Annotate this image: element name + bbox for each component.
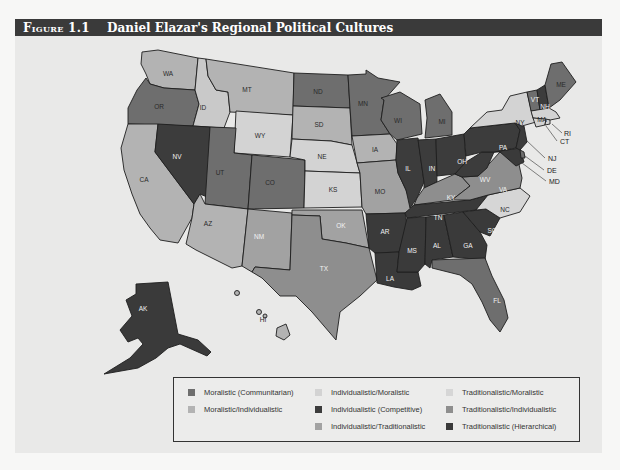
label-ma: MA [537,116,547,123]
label-vt: VT [531,96,539,103]
label-sd: SD [314,121,323,128]
legend-item-moralistic: Moralistic (Communitarian) [188,388,294,397]
label-il: IL [405,165,411,172]
label-ks: KS [329,186,338,193]
callout-md: MD [549,178,560,185]
legend-label: Traditionalistic/Individualistic [462,405,556,414]
callout-ct: CT [560,138,570,145]
label-nv: NV [172,153,182,160]
label-mi: MI [438,118,445,125]
label-mn: MN [358,100,368,107]
callouts: RI CT NJ DE MD [522,124,571,185]
label-az: AZ [204,220,212,227]
legend-item-traditionalistic-individualistic: Traditionalistic/Individualistic [446,405,556,414]
label-oh: OH [457,158,467,165]
legend-swatch [446,389,453,396]
label-wi: WI [394,117,402,124]
label-in: IN [429,165,436,172]
state-fl[interactable] [432,258,508,332]
label-ga: GA [463,242,473,249]
state-mi[interactable] [425,94,452,138]
label-va: VA [499,186,508,193]
label-or: OR [154,103,164,110]
legend-item-moralistic-individualistic: Moralistic/Individualistic [188,405,282,414]
label-id: ID [200,104,207,111]
callout-ri: RI [564,130,571,137]
legend-item-individualistic-moralistic: Individualistic/Moralistic [315,388,409,397]
legend-label: Individualistic/Moralistic [331,388,409,397]
label-co: CO [265,179,275,186]
label-ca: CA [139,176,149,183]
label-nc: NC [500,206,510,213]
label-ms: MS [407,247,417,254]
label-ok: OK [336,222,346,229]
label-tx: TX [320,265,329,272]
legend-item-traditionalistic-moralistic: Traditionalistic/Moralistic [446,388,543,397]
callout-nj: NJ [548,155,557,162]
state-hi-island [257,310,262,315]
legend-swatch [446,406,453,413]
legend-item-traditionalistic: Traditionalistic (Hierarchical) [446,422,556,431]
state-ny[interactable] [470,92,536,128]
label-ar: AR [380,228,389,235]
callout-de: DE [547,167,557,174]
legend-label: Individualistic (Competitive) [331,405,422,414]
legend-label: Traditionalistic (Hierarchical) [462,422,556,431]
legend-label: Moralistic (Communitarian) [204,388,294,397]
state-hi-island [235,291,240,296]
state-ak[interactable] [104,282,211,374]
legend: Moralistic (Communitarian) Moralistic/In… [173,377,580,442]
state-co[interactable] [248,155,305,209]
label-mo: MO [375,188,385,195]
state-nm[interactable] [242,209,292,272]
legend-swatch [315,423,322,430]
legend-swatch [315,406,322,413]
legend-label: Moralistic/Individualistic [204,405,282,414]
label-ne: NE [317,153,327,160]
label-nh: NH [540,103,550,110]
state-de[interactable] [520,150,525,158]
label-sc: SC [487,227,496,234]
label-ny: NY [515,119,525,126]
legend-label: Individualistic/Traditionalistic [331,422,425,431]
label-wy: WY [255,132,266,139]
label-ia: IA [372,146,379,153]
state-hi[interactable] [276,324,290,340]
label-ky: KY [447,194,456,201]
label-al: AL [433,242,441,249]
legend-swatch [446,423,453,430]
label-fl: FL [493,297,501,304]
label-hi: HI [260,316,267,323]
label-ut: UT [216,169,225,176]
label-nm: NM [254,233,264,240]
label-nd: ND [313,88,323,95]
legend-swatch [315,389,322,396]
label-tn: TN [434,214,443,221]
label-me: ME [556,81,566,88]
label-ak: AK [139,305,148,312]
legend-item-individualistic-traditionalistic: Individualistic/Traditionalistic [315,422,425,431]
label-pa: PA [499,144,508,151]
label-mt: MT [242,86,251,93]
label-wa: WA [163,70,174,77]
legend-item-individualistic: Individualistic (Competitive) [315,405,422,414]
label-la: LA [386,275,395,282]
legend-swatch [188,406,195,413]
legend-label: Traditionalistic/Moralistic [462,388,543,397]
legend-swatch [188,389,195,396]
label-wv: WV [480,176,491,183]
